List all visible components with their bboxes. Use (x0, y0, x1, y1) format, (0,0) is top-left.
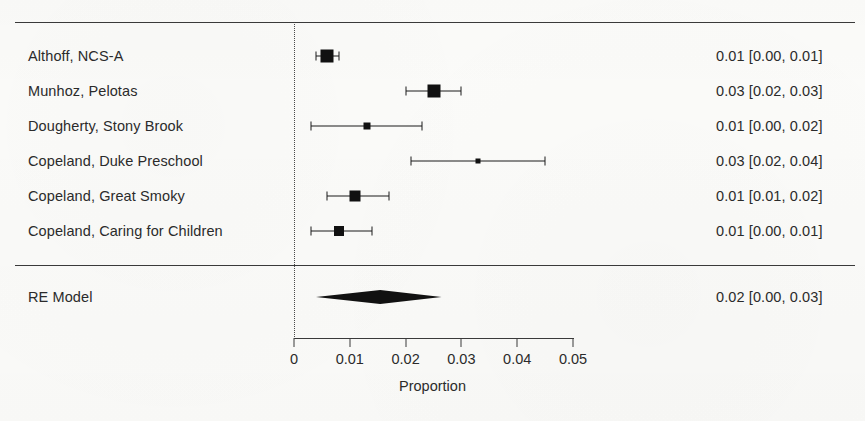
x-axis-title: Proportion (399, 378, 466, 394)
x-axis-line (294, 338, 574, 339)
confidence-interval-cap (422, 122, 423, 131)
x-axis-tick-label: 0.04 (503, 351, 531, 367)
confidence-interval-cap (327, 192, 328, 201)
confidence-interval-cap (545, 157, 546, 166)
confidence-interval-cap (461, 87, 462, 96)
x-axis-tick (517, 338, 518, 347)
effect-estimate-marker (363, 123, 370, 130)
summary-estimate-text: 0.02 [0.00, 0.03] (716, 289, 823, 305)
study-label: Munhoz, Pelotas (28, 83, 138, 99)
header-divider-line (15, 22, 855, 23)
effect-estimate-marker (334, 226, 344, 236)
effect-estimate-marker (321, 50, 334, 63)
confidence-interval-cap (372, 227, 373, 236)
confidence-interval-cap (388, 192, 389, 201)
x-axis-tick (461, 338, 462, 347)
confidence-interval-cap (405, 87, 406, 96)
summary-label: RE Model (28, 289, 92, 305)
effect-estimate-marker (427, 85, 440, 98)
summary-diamond (316, 290, 442, 304)
effect-estimate-marker (350, 191, 361, 202)
x-axis-tick-label: 0.01 (336, 351, 364, 367)
forest-plot: Althoff, NCS-A0.01 [0.00, 0.01]Munhoz, P… (0, 0, 865, 421)
x-axis-tick (405, 338, 406, 347)
x-axis-tick (573, 338, 574, 347)
study-estimate-text: 0.01 [0.01, 0.02] (716, 188, 823, 204)
x-axis-title-wrap: Proportion (0, 378, 865, 394)
x-axis-tick-label: 0.03 (447, 351, 475, 367)
study-estimate-text: 0.03 [0.02, 0.04] (716, 153, 823, 169)
confidence-interval-cap (411, 157, 412, 166)
study-label: Copeland, Duke Preschool (28, 153, 203, 169)
study-label: Dougherty, Stony Brook (28, 118, 183, 134)
effect-estimate-marker (476, 159, 481, 164)
confidence-interval-cap (310, 122, 311, 131)
study-estimate-text: 0.01 [0.00, 0.01] (716, 223, 823, 239)
study-estimate-text: 0.01 [0.00, 0.01] (716, 48, 823, 64)
summary-divider-line (15, 265, 855, 266)
x-axis-tick-label: 0.05 (559, 351, 587, 367)
study-label: Copeland, Great Smoky (28, 188, 185, 204)
study-label: Copeland, Caring for Children (28, 223, 223, 239)
zero-reference-line (294, 24, 296, 337)
study-label: Althoff, NCS-A (28, 48, 123, 64)
x-axis-tick-label: 0 (290, 351, 298, 367)
confidence-interval-cap (316, 52, 317, 61)
study-estimate-text: 0.01 [0.00, 0.02] (716, 118, 823, 134)
x-axis-tick (294, 338, 295, 347)
study-estimate-text: 0.03 [0.02, 0.03] (716, 83, 823, 99)
x-axis-tick-label: 0.02 (391, 351, 419, 367)
confidence-interval-cap (338, 52, 339, 61)
confidence-interval-cap (310, 227, 311, 236)
x-axis-tick (349, 338, 350, 347)
